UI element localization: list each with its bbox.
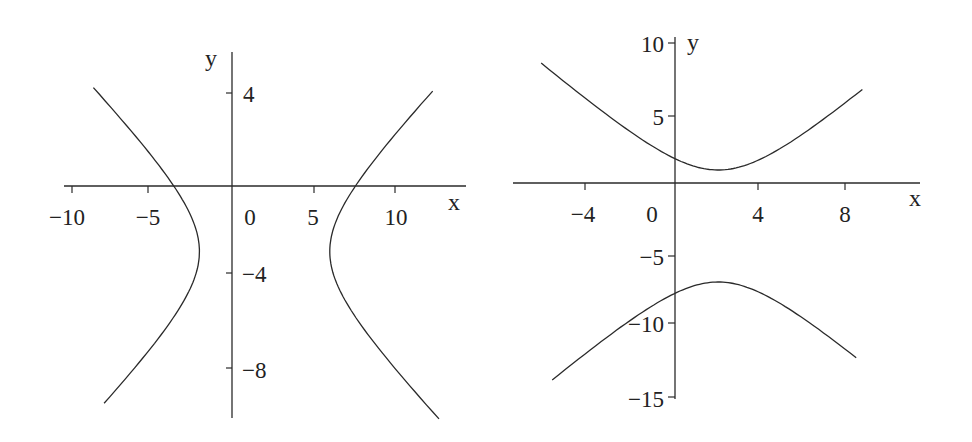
left-x-axis-label: x xyxy=(448,189,460,215)
right-ytick-label: −15 xyxy=(628,387,664,412)
left-hyperbola-right-branch xyxy=(330,91,439,419)
right-hyperbola-upper-branch xyxy=(541,63,862,170)
left-y-axis-label: y xyxy=(205,45,217,71)
right-ytick-label: 5 xyxy=(653,105,665,130)
left-x-tick-labels: −10 −5 0 5 10 xyxy=(49,205,407,230)
right-y-axis-label: y xyxy=(687,29,699,55)
left-x-ticks xyxy=(72,186,395,193)
left-hyperbola-left-branch xyxy=(93,88,199,404)
right-xtick-label: −4 xyxy=(571,202,596,227)
left-xtick-label: −10 xyxy=(49,205,85,230)
right-xtick-label: 0 xyxy=(646,202,658,227)
figure-canvas: −10 −5 0 5 10 4 −4 −8 y x xyxy=(0,0,972,442)
left-y-ticks xyxy=(226,93,232,368)
left-y-tick-labels: 4 −4 −8 xyxy=(242,82,267,383)
left-ytick-label: 4 xyxy=(243,82,255,107)
right-xtick-label: 8 xyxy=(839,202,851,227)
right-x-tick-labels: −4 0 4 8 xyxy=(571,202,851,227)
right-x-axis-label: x xyxy=(909,185,921,211)
left-xtick-label: 10 xyxy=(385,205,408,230)
right-ytick-label: 10 xyxy=(641,32,664,57)
right-hyperbola-lower-branch xyxy=(552,282,856,380)
right-x-ticks xyxy=(585,183,845,190)
left-hyperbola-plot: −10 −5 0 5 10 4 −4 −8 y x xyxy=(49,45,466,419)
right-hyperbola-plot: −4 0 4 8 10 5 −5 −10 −15 y x xyxy=(513,29,921,412)
right-y-ticks xyxy=(668,43,675,397)
right-ytick-label: −5 xyxy=(640,245,664,270)
left-ytick-label: −4 xyxy=(242,262,267,287)
left-xtick-label: 0 xyxy=(244,205,256,230)
left-xtick-label: −5 xyxy=(136,205,160,230)
left-xtick-label: 5 xyxy=(307,205,319,230)
right-ytick-label: −10 xyxy=(628,312,664,337)
left-ytick-label: −8 xyxy=(242,358,266,383)
right-xtick-label: 4 xyxy=(752,202,764,227)
